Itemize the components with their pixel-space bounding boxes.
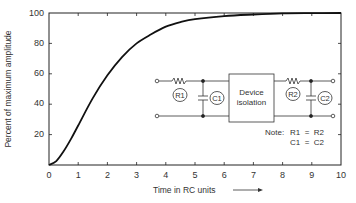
terminal <box>155 114 159 118</box>
y-tick-label: 40 <box>34 98 44 108</box>
y-axis-label: Percent of maximum amplitude <box>3 30 13 147</box>
x-tick-label: 7 <box>251 170 256 180</box>
chart: Percent of maximum amplitude 20 40 60 80… <box>0 0 356 203</box>
x-tick-label: 5 <box>192 170 197 180</box>
y-axis: 20 40 60 80 100 <box>29 8 341 139</box>
terminal <box>331 114 335 118</box>
arrow-right-icon <box>233 188 263 192</box>
note-label: Note: <box>265 128 284 137</box>
x-axis: 0 1 2 3 4 5 6 7 8 9 10 <box>46 13 346 180</box>
y-tick-label: 60 <box>34 68 44 78</box>
note-line2: C1 = C2 <box>290 138 325 147</box>
x-tick-label: 9 <box>309 170 314 180</box>
x-tick-label: 10 <box>336 170 346 180</box>
c2-label: C2 <box>320 94 330 103</box>
x-tick-label: 2 <box>105 170 110 180</box>
x-tick-label: 4 <box>163 170 168 180</box>
box-label-line2: isolation <box>237 98 266 107</box>
c1-label: C1 <box>212 94 222 103</box>
x-tick-label: 1 <box>76 170 81 180</box>
note-line1: R1 = R2 <box>290 128 325 137</box>
y-tick-label: 100 <box>29 8 44 18</box>
x-axis-label: Time in RC units <box>153 185 216 195</box>
box-label-line1: Device <box>239 88 264 97</box>
y-tick-label: 80 <box>34 38 44 48</box>
x-tick-label: 0 <box>46 170 51 180</box>
resistor-r2-icon <box>286 78 300 84</box>
terminal <box>155 79 159 83</box>
r2-label: R2 <box>288 90 298 99</box>
resistor-r1-icon <box>172 78 186 84</box>
terminal <box>331 79 335 83</box>
y-tick-label: 20 <box>34 129 44 139</box>
x-tick-label: 8 <box>280 170 285 180</box>
x-tick-label: 3 <box>134 170 139 180</box>
r1-label: R1 <box>175 91 185 100</box>
x-tick-label: 6 <box>222 170 227 180</box>
